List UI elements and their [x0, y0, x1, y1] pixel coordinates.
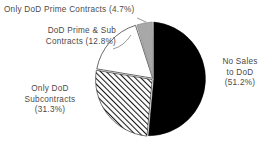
pie-label-dod-prime-and-sub-contracts: DoD Prime & Sub Contracts (12.8%) [8, 26, 116, 47]
pie-chart: Only DoD Prime Contracts (4.7%) DoD Prim… [0, 0, 266, 148]
pie-label-line: Subcontracts [8, 95, 92, 106]
pie-label-line: Only DoD Prime Contracts (4.7%) [4, 5, 135, 16]
leader-line-prime-only [137, 18, 146, 22]
pie-label-line: to DoD [216, 68, 264, 79]
pie-label-line: (51.2%) [216, 78, 264, 89]
pie-label-line: No Sales [216, 57, 264, 68]
pie-slice-only-dod-subcontracts [96, 70, 153, 136]
pie-label-no-sales-to-dod: No Sales to DoD (51.2%) [216, 57, 264, 89]
pie-label-line: (31.3%) [8, 105, 92, 116]
pie-slice-no-sales-to-dod [149, 22, 206, 136]
pie-label-only-dod-subcontracts: Only DoD Subcontracts (31.3%) [8, 84, 92, 116]
pie-label-only-dod-prime-contracts: Only DoD Prime Contracts (4.7%) [4, 5, 135, 16]
pie-label-line: DoD Prime & Sub [8, 26, 116, 37]
pie-label-line: Contracts (12.8%) [8, 37, 116, 48]
pie-label-line: Only DoD [8, 84, 92, 95]
